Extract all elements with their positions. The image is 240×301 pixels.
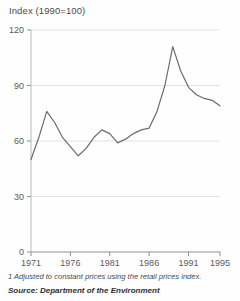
x-tick-label: 1991 (178, 258, 198, 268)
x-tick-label: 1976 (60, 258, 80, 268)
line-chart-plot: 0306090120 197119761981198619911995 (0, 0, 240, 301)
y-tick-label: 120 (9, 25, 24, 35)
chart-page: Index (1990=100) 0306090120 197119761981… (0, 0, 240, 301)
y-tick-label: 0 (19, 247, 24, 257)
data-series-line (31, 47, 220, 160)
y-tick-label: 90 (14, 81, 24, 91)
source-text: Source: Department of the Environment (8, 286, 160, 295)
y-tick-label: 30 (14, 192, 24, 202)
x-tick-label: 1986 (139, 258, 159, 268)
x-tick-label: 1995 (210, 258, 230, 268)
x-axis-labels-group: 197119761981198619911995 (21, 258, 230, 268)
x-tick-label: 1981 (100, 258, 120, 268)
x-tick-label: 1971 (21, 258, 41, 268)
tick-marks-group (27, 30, 220, 256)
footnote-text: 1 Adjusted to constant prices using the … (8, 272, 201, 281)
gridlines-group (31, 30, 220, 197)
y-tick-label: 60 (14, 136, 24, 146)
y-axis-labels-group: 0306090120 (9, 25, 24, 257)
